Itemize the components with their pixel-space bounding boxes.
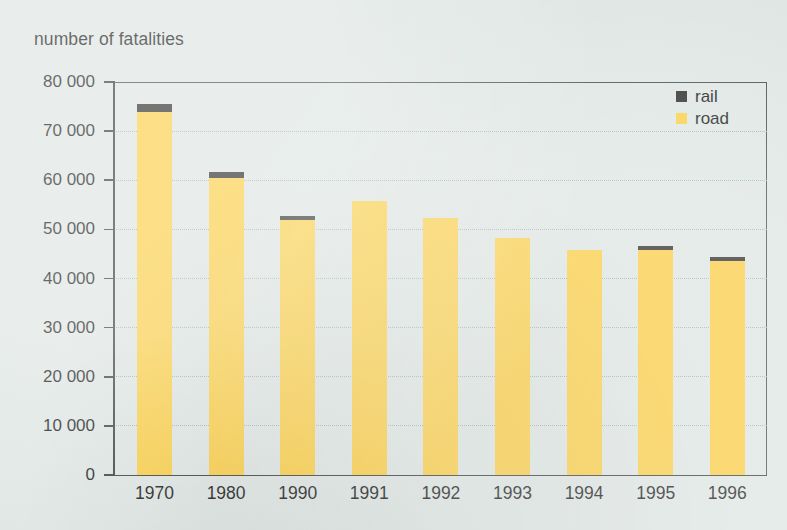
bar-segment-road[interactable] — [710, 261, 745, 475]
bar-group[interactable] — [638, 0, 673, 475]
bar-segment-road[interactable] — [567, 250, 602, 475]
legend-swatch-rail — [676, 91, 687, 102]
bar-segment-rail[interactable] — [209, 172, 244, 177]
bar-segment-road[interactable] — [638, 250, 673, 475]
bar-group[interactable] — [710, 0, 745, 475]
legend-label-road: road — [695, 110, 729, 127]
bar-group[interactable] — [352, 0, 387, 475]
chart-legend: railroad — [676, 88, 729, 127]
bar-group[interactable] — [567, 0, 602, 475]
bar-segment-road[interactable] — [423, 218, 458, 475]
bar-segment-road[interactable] — [495, 238, 530, 475]
bar-segment-road[interactable] — [352, 201, 387, 475]
bar-segment-rail[interactable] — [638, 246, 673, 250]
bar-segment-rail[interactable] — [710, 257, 745, 260]
bar-group[interactable] — [209, 0, 244, 475]
legend-label-rail: rail — [695, 88, 718, 105]
bar-segment-road[interactable] — [209, 178, 244, 475]
bar-segment-rail[interactable] — [280, 216, 315, 220]
bars-layer — [0, 0, 787, 475]
bar-segment-rail[interactable] — [137, 104, 172, 112]
legend-item-rail: rail — [676, 88, 729, 105]
legend-swatch-road — [676, 113, 687, 124]
bar-group[interactable] — [423, 0, 458, 475]
bar-group[interactable] — [280, 0, 315, 475]
bar-segment-road[interactable] — [280, 220, 315, 475]
bar-segment-road[interactable] — [137, 112, 172, 475]
bar-chart-figure: number of fatalities 80 00070 00060 0005… — [0, 0, 787, 530]
legend-item-road: road — [676, 110, 729, 127]
bar-group[interactable] — [495, 0, 530, 475]
x-axis-tick-label: 1996 — [682, 483, 772, 504]
bar-group[interactable] — [137, 0, 172, 475]
